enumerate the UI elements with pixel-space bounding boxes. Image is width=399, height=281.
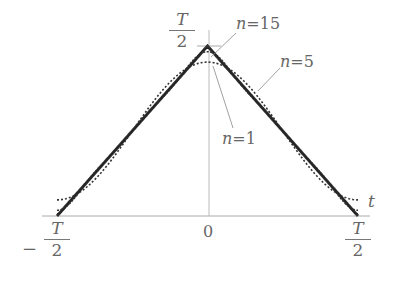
y-tick-numerator: T <box>169 10 195 29</box>
label-n15-var: n <box>236 14 246 33</box>
x-tick-neg-denominator: 2 <box>44 241 70 260</box>
series-exact-curve <box>57 46 358 216</box>
x-tick-zero: 0 <box>203 222 213 241</box>
series-n1-curve <box>57 62 358 200</box>
series-n5-curve <box>57 52 358 211</box>
x-tick-pos-denominator: 2 <box>345 241 371 260</box>
x-tick-pos-numerator: T <box>345 219 371 238</box>
x-tick-neg-numerator: T <box>44 219 70 238</box>
label-n5: n=5 <box>280 52 314 71</box>
leader-n15 <box>211 33 236 57</box>
leader-n1 <box>213 66 233 128</box>
label-n5-var: n <box>280 52 290 71</box>
x-tick-minus-sign: − <box>22 238 37 259</box>
label-n5-val: =5 <box>290 52 314 71</box>
label-n1-var: n <box>222 129 232 148</box>
x-tick-pos-T-half: T 2 <box>345 219 371 260</box>
series-n15-curve <box>57 48 358 214</box>
t-axis-label: t <box>368 191 375 211</box>
label-n1-val: =1 <box>232 129 256 148</box>
x-tick-neg-T-half: T 2 <box>44 219 70 260</box>
label-n15-val: =15 <box>246 14 280 33</box>
leader-n5 <box>258 68 280 91</box>
label-n1: n=1 <box>222 129 256 148</box>
y-tick-denominator: 2 <box>169 32 195 51</box>
label-n15: n=15 <box>236 14 280 33</box>
y-tick-T-half: T 2 <box>169 10 195 51</box>
